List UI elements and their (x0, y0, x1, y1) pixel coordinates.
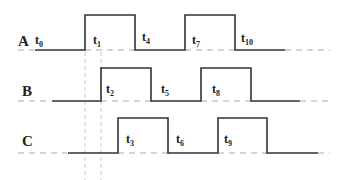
timing-diagram: A t0 t1 t4 t7 t10 B t2 t5 t8 C t3 t6 t9 (0, 0, 341, 180)
signal-a: A t0 t1 t4 t7 t10 (18, 15, 330, 50)
signal-c: C t3 t6 t9 (18, 118, 330, 153)
time-label-t3: t3 (126, 132, 134, 148)
time-label-t2: t2 (106, 82, 114, 98)
signal-label-a: A (18, 33, 29, 49)
time-label-t9: t9 (224, 132, 232, 148)
signal-label-b: B (22, 83, 32, 99)
time-label-t6: t6 (176, 132, 184, 148)
time-label-t5: t5 (161, 82, 169, 98)
signal-b: B t2 t5 t8 (18, 68, 330, 101)
time-label-t8: t8 (212, 82, 220, 98)
time-label-t4: t4 (142, 30, 150, 46)
waveform-b (52, 68, 300, 101)
time-label-t1: t1 (93, 33, 101, 49)
signal-label-c: C (22, 133, 33, 149)
time-label-t7: t7 (192, 33, 200, 49)
waveform-c (68, 118, 318, 153)
time-label-t0: t0 (35, 33, 43, 49)
time-label-t10: t10 (241, 31, 253, 47)
